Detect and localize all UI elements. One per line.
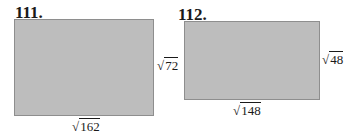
radicand: 48: [329, 51, 343, 67]
radicand: 162: [79, 118, 100, 134]
side-length-label: √48: [322, 53, 343, 67]
radicand: 148: [240, 102, 261, 118]
rectangle-figure: [184, 21, 320, 100]
bottom-length-label: √162: [72, 120, 100, 134]
bottom-length-label: √148: [233, 104, 261, 118]
rectangle-figure: [14, 19, 154, 116]
radicand: 72: [164, 57, 178, 73]
side-length-label: √72: [157, 59, 178, 73]
